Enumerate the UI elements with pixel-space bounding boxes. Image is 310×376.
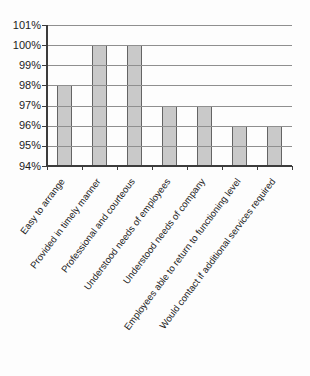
gridline	[47, 25, 292, 26]
plot-area	[47, 25, 292, 166]
y-axis-label: 98%	[3, 79, 41, 92]
x-tick	[222, 166, 223, 170]
y-axis-label: 96%	[3, 119, 41, 132]
y-axis-label: 99%	[3, 59, 41, 72]
x-tick	[187, 166, 188, 170]
y-tick	[42, 25, 47, 26]
y-axis-label: 100%	[3, 39, 41, 52]
bar	[197, 106, 212, 166]
y-tick	[42, 45, 47, 46]
y-tick	[42, 65, 47, 66]
x-tick	[152, 166, 153, 170]
y-tick	[42, 126, 47, 127]
x-tick	[82, 166, 83, 170]
y-axis-line	[46, 25, 48, 166]
x-tick	[117, 166, 118, 170]
y-tick	[42, 146, 47, 147]
x-tick	[257, 166, 258, 170]
y-axis-label: 94%	[3, 160, 41, 173]
y-tick	[42, 106, 47, 107]
x-tick	[292, 166, 293, 170]
gridline	[47, 85, 292, 86]
y-tick	[42, 85, 47, 86]
bar	[162, 106, 177, 166]
y-axis-label: 97%	[3, 99, 41, 112]
bar-chart: 101%100%99%98%97%96%95%94% Easy to arran…	[0, 0, 310, 376]
y-axis-label: 101%	[3, 19, 41, 32]
y-axis-label: 95%	[3, 139, 41, 152]
x-tick	[47, 166, 48, 170]
gridline	[47, 126, 292, 127]
gridline	[47, 65, 292, 66]
gridline	[47, 106, 292, 107]
gridline	[47, 146, 292, 147]
gridline	[47, 45, 292, 46]
